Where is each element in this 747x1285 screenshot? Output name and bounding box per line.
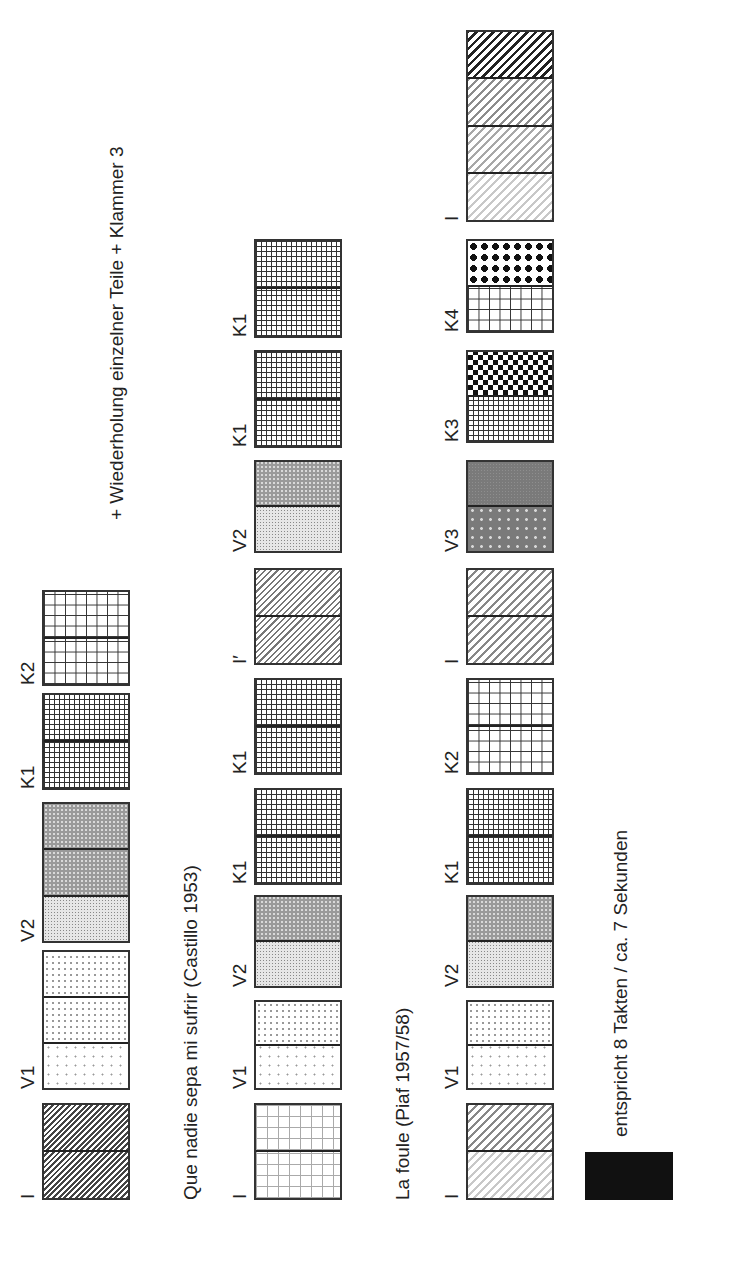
measure-segment bbox=[256, 1153, 340, 1199]
block-label: K1 bbox=[442, 861, 461, 884]
measure-segment bbox=[256, 943, 340, 987]
section-block-i bbox=[466, 1103, 554, 1200]
section-block-k2 bbox=[466, 678, 554, 775]
measure-segment bbox=[256, 1046, 340, 1088]
measure-segment bbox=[256, 1105, 340, 1153]
measure-segment bbox=[468, 897, 552, 943]
measure-segment bbox=[256, 1002, 340, 1046]
measure-segment bbox=[44, 639, 128, 684]
section-block-v2 bbox=[42, 802, 130, 943]
block-label: V1 bbox=[18, 1066, 37, 1089]
song-title-castillo: Que nadie sepa mi sufrir (Castillo 1953) bbox=[180, 865, 202, 1200]
section-block-i-outro bbox=[466, 30, 554, 222]
block-label: K1 bbox=[230, 751, 249, 774]
measure-segment bbox=[468, 32, 552, 80]
block-label: I bbox=[18, 1194, 37, 1199]
block-label: K1 bbox=[230, 424, 249, 447]
block-label: V2 bbox=[442, 964, 461, 987]
measure-segment bbox=[468, 1105, 552, 1153]
section-block-k1 bbox=[42, 693, 130, 790]
block-label: K1 bbox=[230, 861, 249, 884]
section-block-k3 bbox=[466, 350, 554, 443]
measure-segment bbox=[44, 592, 128, 639]
section-block-v3 bbox=[466, 460, 554, 553]
repeat-annotation: + Wiederholung einzelner Teile + Klammer… bbox=[106, 146, 128, 520]
block-label: K3 bbox=[442, 419, 461, 442]
section-block-i bbox=[254, 1103, 342, 1200]
section-block-v2 bbox=[254, 460, 342, 553]
section-block-i bbox=[466, 568, 554, 665]
section-block-v1 bbox=[254, 1000, 342, 1090]
section-block-i bbox=[42, 1103, 130, 1200]
measure-segment bbox=[44, 1153, 128, 1199]
block-label: V3 bbox=[442, 529, 461, 552]
measure-segment bbox=[256, 241, 340, 290]
measure-segment bbox=[468, 398, 552, 442]
block-label: I′ bbox=[230, 655, 249, 664]
measure-segment bbox=[256, 290, 340, 337]
section-block-k4 bbox=[466, 239, 554, 333]
measure-segment bbox=[468, 462, 552, 508]
block-label: I bbox=[442, 659, 461, 664]
form-diagram: I V1 V2 K1 K2 + Wiederholung einzelner T… bbox=[0, 0, 747, 1285]
measure-segment bbox=[468, 1046, 552, 1088]
block-label: I bbox=[442, 1194, 461, 1199]
measure-segment bbox=[468, 838, 552, 884]
measure-segment bbox=[44, 850, 128, 896]
section-block-v2 bbox=[254, 895, 342, 988]
block-label: V2 bbox=[18, 919, 37, 942]
block-label: V1 bbox=[230, 1066, 249, 1089]
section-block-k1 bbox=[466, 788, 554, 885]
block-label: K1 bbox=[230, 314, 249, 337]
block-label: K2 bbox=[442, 751, 461, 774]
block-label: I bbox=[230, 1194, 249, 1199]
measure-segment bbox=[468, 287, 552, 331]
block-label: K1 bbox=[18, 766, 37, 789]
measure-segment bbox=[468, 175, 552, 221]
measure-segment bbox=[44, 952, 128, 998]
block-label: V2 bbox=[230, 529, 249, 552]
measure-segment bbox=[468, 790, 552, 838]
measure-segment bbox=[468, 1153, 552, 1199]
measure-segment bbox=[468, 618, 552, 664]
measure-segment bbox=[44, 1105, 128, 1153]
section-block-v1 bbox=[466, 1000, 554, 1090]
section-block-v1 bbox=[42, 950, 130, 1090]
measure-segment bbox=[44, 897, 128, 941]
measure-segment bbox=[44, 695, 128, 743]
measure-segment bbox=[256, 728, 340, 774]
section-block-v2 bbox=[466, 895, 554, 988]
measure-segment bbox=[468, 728, 552, 774]
measure-segment bbox=[44, 998, 128, 1044]
measure-segment bbox=[468, 1002, 552, 1046]
measure-segment bbox=[256, 570, 340, 618]
section-block-k1 bbox=[254, 350, 342, 448]
legend-swatch bbox=[585, 1152, 673, 1200]
block-label: K2 bbox=[18, 662, 37, 685]
song-title-piaf: La foule (Piaf 1957/58) bbox=[392, 1008, 414, 1200]
section-block-k2 bbox=[42, 590, 130, 686]
block-label: V2 bbox=[230, 964, 249, 987]
section-block-k1 bbox=[254, 678, 342, 775]
block-label: K4 bbox=[442, 309, 461, 332]
measure-segment bbox=[256, 680, 340, 728]
measure-segment bbox=[468, 680, 552, 728]
block-label: V1 bbox=[442, 1066, 461, 1089]
measure-segment bbox=[256, 508, 340, 552]
measure-segment bbox=[256, 462, 340, 508]
measure-segment bbox=[256, 618, 340, 664]
measure-segment bbox=[468, 241, 552, 287]
section-block-i-prime bbox=[254, 568, 342, 665]
measure-segment bbox=[256, 790, 340, 838]
measure-segment bbox=[256, 897, 340, 943]
measure-segment bbox=[256, 400, 340, 446]
legend-text: entspricht 8 Takten / ca. 7 Sekunden bbox=[610, 830, 632, 1137]
section-block-k1 bbox=[254, 239, 342, 338]
measure-segment bbox=[256, 352, 340, 400]
measure-segment bbox=[468, 352, 552, 398]
measure-segment bbox=[468, 127, 552, 175]
measure-segment bbox=[44, 743, 128, 789]
measure-segment bbox=[44, 1044, 128, 1088]
measure-segment bbox=[44, 804, 128, 850]
measure-segment bbox=[468, 80, 552, 128]
